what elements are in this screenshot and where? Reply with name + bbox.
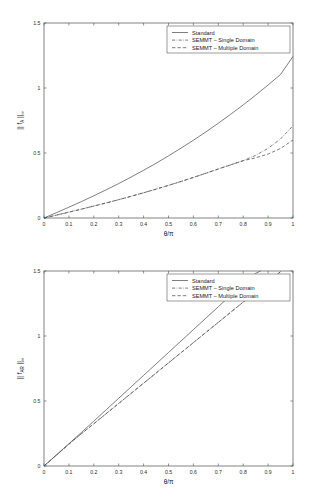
chart-panel-top: 00.10.20.30.40.50.60.70.80.9100.511.5θ/π… [0, 0, 311, 250]
x-tick-label: 0.3 [115, 469, 122, 475]
y-tick-label: 0.5 [33, 150, 40, 156]
x-tick-label: 0.3 [115, 221, 122, 227]
x-tick-label: 0.4 [140, 469, 147, 475]
plot-area-top: 00.10.20.30.40.50.60.70.80.9100.511.5θ/π… [0, 0, 311, 250]
x-tick-label: 0.6 [190, 221, 197, 227]
x-tick-label: 0.2 [90, 221, 97, 227]
x-tick-label: 0.4 [140, 221, 147, 227]
x-tick-label: 0.6 [190, 469, 197, 475]
x-tick-label: 0.8 [240, 469, 247, 475]
y-tick-label: 1.5 [33, 268, 40, 274]
curve-dash-dot [44, 126, 293, 218]
x-tick-label: 0.9 [264, 221, 271, 227]
y-axis-title: || fAR ||∞ [16, 358, 25, 380]
y-axis-title: || fA ||∞ [16, 111, 25, 129]
curve-solid [44, 56, 293, 218]
legend-entry-label: SEMMT – Multiple Domain [192, 293, 258, 299]
legend-entry-label: SEMMT – Single Domain [192, 285, 255, 291]
y-tick-label: 1.5 [33, 20, 40, 26]
x-axis-title: θ/π [164, 230, 174, 237]
y-tick-label: 0 [38, 215, 41, 221]
legend-entry-label: SEMMT – Single Domain [192, 37, 255, 43]
y-tick-label: 1 [38, 85, 41, 91]
curve-dashed [44, 140, 293, 218]
legend-entry-label: Standard [192, 278, 215, 284]
x-tick-label: 1 [292, 221, 295, 227]
x-tick-label: 0.1 [65, 221, 72, 227]
x-tick-label: 0.8 [240, 221, 247, 227]
chart-panel-bottom: 00.10.20.30.40.50.60.70.80.9100.511.5θ/π… [0, 250, 311, 500]
x-tick-label: 0.1 [65, 469, 72, 475]
y-tick-label: 0 [38, 463, 41, 469]
y-tick-label: 1 [38, 333, 41, 339]
plot-area-bottom: 00.10.20.30.40.50.60.70.80.9100.511.5θ/π… [0, 250, 311, 500]
x-axis-title: θ/π [164, 478, 174, 485]
legend-entry-label: SEMMT – Multiple Domain [192, 45, 258, 51]
svg-text:|| fAR ||∞: || fAR ||∞ [16, 358, 25, 380]
legend-entry-label: Standard [192, 30, 215, 36]
x-tick-label: 0.5 [165, 469, 172, 475]
x-tick-label: 0.7 [215, 221, 222, 227]
figure-container: 00.10.20.30.40.50.60.70.80.9100.511.5θ/π… [0, 0, 311, 500]
x-tick-label: 0 [43, 221, 46, 227]
svg-text:|| fA ||∞: || fA ||∞ [16, 111, 25, 129]
x-tick-label: 0.5 [165, 221, 172, 227]
x-tick-label: 1 [292, 469, 295, 475]
x-tick-label: 0.9 [264, 469, 271, 475]
y-tick-label: 0.5 [33, 398, 40, 404]
x-tick-label: 0 [43, 469, 46, 475]
x-tick-label: 0.7 [215, 469, 222, 475]
x-tick-label: 0.2 [90, 469, 97, 475]
